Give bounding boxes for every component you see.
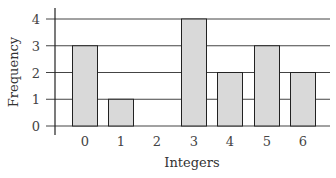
y-tick-label: 3 <box>32 39 40 54</box>
bar-3 <box>182 19 207 126</box>
bar-5 <box>255 46 280 126</box>
x-tick-labels: 0123456 <box>81 134 307 149</box>
y-tick-label: 4 <box>32 12 40 27</box>
y-tick-labels: 01234 <box>32 12 40 134</box>
x-tick-label: 3 <box>190 134 198 149</box>
bar-0 <box>73 46 98 126</box>
x-tick-label: 5 <box>263 134 271 149</box>
x-axis-label: Integers <box>164 155 219 170</box>
x-tick-label: 0 <box>81 134 89 149</box>
y-tick-label: 0 <box>32 119 40 134</box>
y-axis-label: Frequency <box>6 36 21 107</box>
x-tick-label: 2 <box>153 134 161 149</box>
y-tick-label: 2 <box>32 66 40 81</box>
bar-4 <box>218 73 243 127</box>
x-tick-label: 1 <box>117 134 125 149</box>
x-tick-label: 4 <box>226 134 234 149</box>
bar-1 <box>109 99 134 126</box>
frequency-bar-chart: 01234 0123456 Integers Frequency <box>0 0 336 178</box>
bar-6 <box>291 73 316 127</box>
x-tick-label: 6 <box>299 134 307 149</box>
y-tick-label: 1 <box>32 92 40 107</box>
